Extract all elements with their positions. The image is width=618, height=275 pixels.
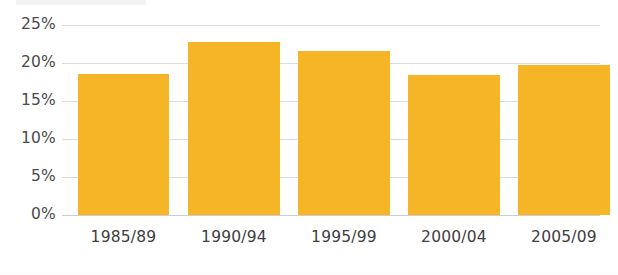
bar-1990-94 [188,42,280,215]
bar-2000-04 [408,75,500,215]
y-tick-label-20: 20% [0,55,56,71]
y-tick-label-5: 5% [0,169,56,185]
x-label-1995-99: 1995/99 [288,228,400,247]
axis-baseline [62,215,600,216]
x-label-1985-89: 1985/89 [68,228,179,247]
x-axis-category-labels: 1985/89 1990/94 1995/99 2000/04 2005/09 [62,228,600,258]
x-label-2000-04: 2000/04 [398,228,510,247]
bar-chart: 25% 20% 15% 10% 5% 0% 1985/89 1990/94 19… [0,0,618,275]
bar-series [62,25,600,215]
x-label-1990-94: 1990/94 [178,228,290,247]
y-tick-label-10: 10% [0,131,56,147]
bar-1985-89 [78,74,169,215]
bar-2005-09 [518,65,610,215]
y-tick-label-0: 0% [0,207,56,223]
x-label-2005-09: 2005/09 [508,228,618,247]
plot-area [62,25,600,215]
y-tick-label-15: 15% [0,93,56,109]
y-axis-tick-labels: 25% 20% 15% 10% 5% 0% [0,0,56,275]
y-tick-label-25: 25% [0,17,56,33]
bar-1995-99 [298,51,390,215]
